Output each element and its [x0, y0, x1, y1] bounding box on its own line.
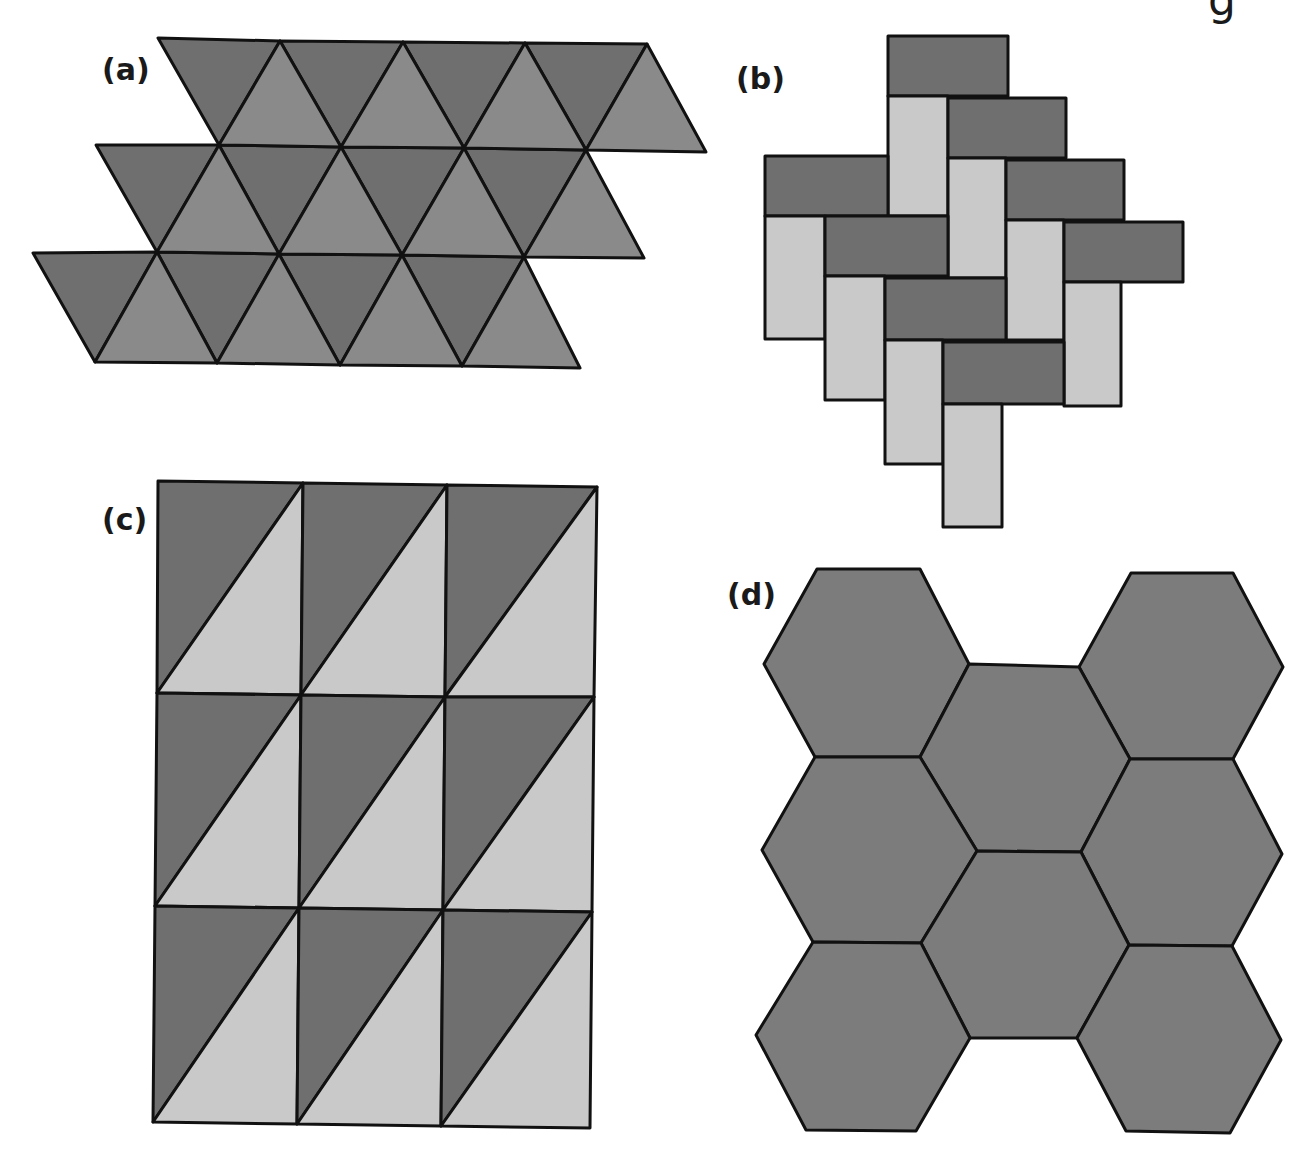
horizontal-brick: [1064, 222, 1183, 282]
vertical-brick: [825, 276, 885, 400]
horizontal-brick: [765, 156, 888, 216]
vertical-brick: [885, 340, 943, 464]
panel-c-label: (c): [102, 505, 147, 535]
vertical-brick: [1006, 220, 1064, 340]
panel-d-hexagon-tessellation: [756, 569, 1283, 1133]
panel-c-right-triangle-tessellation: [153, 481, 597, 1128]
horizontal-brick: [888, 36, 1008, 96]
horizontal-brick: [1006, 160, 1124, 220]
horizontal-brick: [943, 342, 1064, 404]
horizontal-brick: [948, 98, 1066, 158]
panel-b-label: (b): [736, 64, 785, 94]
tessellation-figure: [0, 0, 1311, 1157]
vertical-brick: [948, 158, 1006, 278]
vertical-brick: [1064, 282, 1121, 406]
vertical-brick: [943, 404, 1002, 527]
cropped-heading-fragment: g: [1208, 0, 1236, 22]
panel-b-herringbone-tessellation: [765, 36, 1183, 527]
horizontal-brick: [885, 278, 1006, 340]
vertical-brick: [888, 96, 948, 216]
panel-a-triangle-tessellation: [33, 38, 706, 368]
panel-a-label: (a): [102, 55, 150, 85]
panel-d-label: (d): [727, 580, 776, 610]
vertical-brick: [765, 216, 825, 339]
horizontal-brick: [825, 216, 948, 276]
